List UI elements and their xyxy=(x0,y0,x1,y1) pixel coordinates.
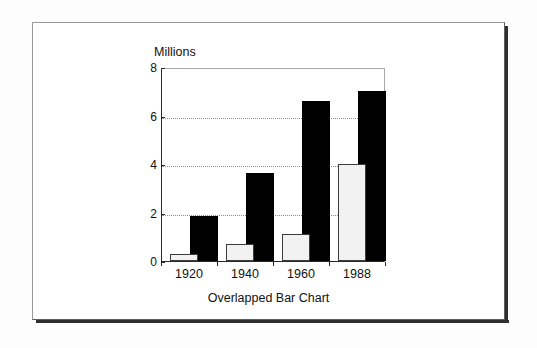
x-tick-mark-1960 xyxy=(273,262,274,266)
x-tick-mark-1940 xyxy=(217,262,218,266)
y-tick-label-2: 2 xyxy=(135,207,157,221)
y-tick-label-4: 4 xyxy=(135,158,157,172)
y-axis-tick-labels: 02468 xyxy=(133,68,157,262)
x-tick-label-1988: 1988 xyxy=(343,267,371,281)
chart-caption: Overlapped Bar Chart xyxy=(0,291,537,305)
y-tick-mark-2 xyxy=(161,214,165,215)
plot-area xyxy=(161,68,385,262)
bar-light-1960 xyxy=(282,234,310,261)
x-tick-mark-end xyxy=(385,262,386,266)
y-tick-mark-8 xyxy=(161,68,165,69)
x-tick-mark-1920 xyxy=(161,262,162,266)
x-tick-label-1940: 1940 xyxy=(231,267,259,281)
y-tick-label-6: 6 xyxy=(135,110,157,124)
y-tick-mark-6 xyxy=(161,117,165,118)
overlapped-bar-chart: Millions 02468 Overlapped Bar Chart 1920… xyxy=(0,0,537,348)
bar-light-1988 xyxy=(338,164,366,261)
x-tick-mark-1988 xyxy=(329,262,330,266)
y-tick-label-8: 8 xyxy=(135,61,157,75)
y-tick-label-0: 0 xyxy=(135,255,157,269)
gridline-y-6 xyxy=(162,118,386,119)
x-tick-label-1920: 1920 xyxy=(175,267,203,281)
y-axis-title: Millions xyxy=(154,45,196,59)
y-tick-mark-4 xyxy=(161,165,165,166)
bar-light-1920 xyxy=(170,254,198,261)
bar-light-1940 xyxy=(226,244,254,261)
x-tick-label-1960: 1960 xyxy=(287,267,315,281)
